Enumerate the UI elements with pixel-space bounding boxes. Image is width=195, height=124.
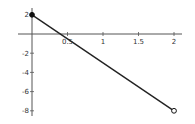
x-tick-label: 1.5 <box>133 38 144 46</box>
ticks: 0.511.522-2-4-6-8 <box>22 11 176 115</box>
y-tick-label: -2 <box>22 50 29 58</box>
data-line <box>32 15 174 111</box>
x-tick-label: 1 <box>101 38 105 46</box>
x-tick-label: 2 <box>172 38 176 46</box>
y-tick-label: 2 <box>25 11 29 19</box>
series <box>32 15 174 111</box>
filled-endpoint-marker <box>30 12 35 17</box>
y-tick-label: -6 <box>22 88 30 96</box>
y-tick-label: -8 <box>22 107 29 115</box>
y-tick-label: -4 <box>22 69 30 77</box>
line-chart: 0.511.522-2-4-6-8 <box>0 0 195 124</box>
open-endpoint-marker <box>172 108 177 113</box>
